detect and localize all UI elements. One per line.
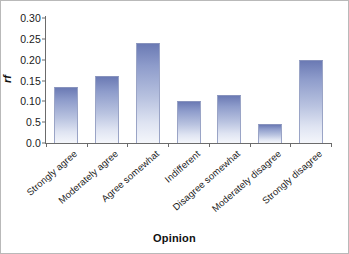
y-tick-mark bbox=[42, 122, 46, 123]
y-axis-title: rf bbox=[1, 75, 13, 83]
bar bbox=[258, 124, 282, 143]
y-tick-mark bbox=[42, 59, 46, 60]
y-tick-mark bbox=[42, 18, 46, 19]
bar bbox=[177, 101, 201, 143]
bar bbox=[217, 95, 241, 143]
plot-area: 0.300.250.200.150.100.50.0 bbox=[46, 18, 331, 143]
bar-chart-figure: 0.300.250.200.150.100.50.0 rf Opinion St… bbox=[0, 0, 349, 254]
x-tick-label: Moderately disagree bbox=[210, 148, 284, 214]
x-tick-label: Indifferent bbox=[162, 148, 202, 185]
x-tick-mark bbox=[331, 143, 332, 147]
x-tick-mark bbox=[46, 143, 47, 147]
y-tick-mark bbox=[42, 38, 46, 39]
x-tick-label: Disagree somewhat bbox=[171, 148, 243, 212]
bar bbox=[136, 43, 160, 143]
y-tick-mark bbox=[42, 80, 46, 81]
y-tick-mark bbox=[42, 101, 46, 102]
x-tick-mark bbox=[127, 143, 128, 147]
bar bbox=[54, 87, 78, 143]
x-tick-mark bbox=[250, 143, 251, 147]
x-tick-mark bbox=[209, 143, 210, 147]
bar bbox=[299, 60, 323, 143]
bar bbox=[95, 76, 119, 143]
x-tick-mark bbox=[168, 143, 169, 147]
x-axis-title: Opinion bbox=[1, 232, 348, 244]
x-tick-mark bbox=[87, 143, 88, 147]
x-tick-mark bbox=[290, 143, 291, 147]
x-axis-line bbox=[45, 143, 332, 144]
